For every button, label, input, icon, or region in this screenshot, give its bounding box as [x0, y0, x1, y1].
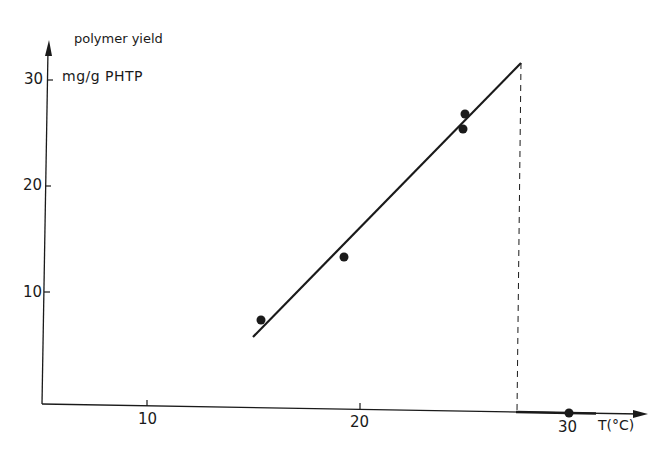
data-point	[340, 253, 349, 262]
y-tick-label-20: 20	[23, 176, 42, 194]
zero-yield-segment	[516, 412, 596, 414]
x-tick-label-30: 30	[558, 418, 577, 436]
data-point	[257, 316, 266, 325]
y-tick-label-30: 30	[24, 70, 43, 88]
data-point	[461, 110, 470, 119]
x-tick-label-10: 10	[138, 410, 157, 428]
cutoff-dashed-line	[517, 63, 521, 412]
y-axis-title: polymer yield	[74, 31, 163, 46]
y-tick-label-10: 10	[23, 283, 42, 301]
x-axis-arrow-icon	[633, 410, 648, 418]
y-axis-unit: mg/g PHTP	[62, 68, 143, 84]
y-axis	[42, 50, 48, 404]
x-tick-label-20: 20	[350, 413, 369, 431]
x-axis-title: T(°C)	[598, 417, 634, 433]
fit-line	[253, 63, 521, 337]
data-point	[565, 409, 574, 418]
data-point	[459, 125, 468, 134]
y-axis-arrow-icon	[45, 40, 52, 56]
